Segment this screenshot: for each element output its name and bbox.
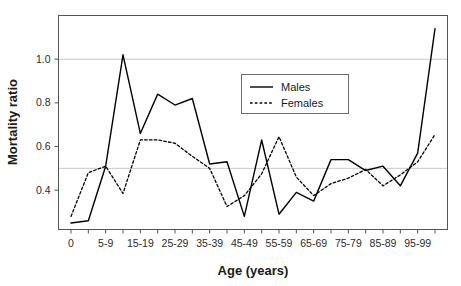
y-tick-label: 1.0: [36, 53, 51, 65]
x-tick-label: 0: [68, 237, 74, 249]
series-line-males: [71, 29, 435, 223]
x-tick-label: 95-99: [404, 237, 431, 249]
x-axis-title: Age (years): [218, 263, 289, 278]
x-tick-label: 15-19: [127, 237, 154, 249]
plot-frame: [59, 16, 448, 230]
y-tick-label: 0.8: [36, 96, 51, 108]
y-tick-label: 0.6: [36, 140, 51, 152]
chart-figure: 0.40.60.81.0 05-915-1925-2935-3945-4955-…: [0, 0, 461, 286]
mortality-ratio-line-chart: 0.40.60.81.0 05-915-1925-2935-3945-4955-…: [0, 0, 461, 286]
chart-legend: Males Females: [242, 75, 349, 114]
x-tick-label: 75-79: [335, 237, 362, 249]
legend-label-females: Females: [281, 97, 324, 109]
x-axis-ticks: [71, 230, 435, 234]
x-axis-tick-labels: 05-915-1925-2935-3945-4955-5965-6975-798…: [68, 237, 431, 249]
data-series: [71, 29, 435, 223]
x-tick-label: 85-89: [370, 237, 397, 249]
y-tick-label: 0.4: [36, 184, 51, 196]
y-axis-tick-labels: 0.40.60.81.0: [36, 53, 51, 196]
x-tick-label: 35-39: [196, 237, 223, 249]
legend-label-males: Males: [281, 81, 311, 93]
x-tick-label: 55-59: [266, 237, 293, 249]
y-axis-ticks: [55, 59, 59, 190]
x-tick-label: 45-49: [231, 237, 258, 249]
x-tick-label: 65-69: [300, 237, 327, 249]
y-axis-title: Mortality ratio: [5, 79, 20, 165]
x-tick-label: 5-9: [98, 237, 113, 249]
x-tick-label: 25-29: [162, 237, 189, 249]
